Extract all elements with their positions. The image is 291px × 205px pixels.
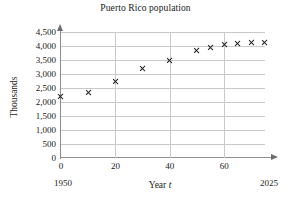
gridline-vertical <box>115 32 116 158</box>
data-point <box>221 41 228 48</box>
y-tick-label: 2,500 <box>22 84 56 93</box>
y-tick-label: 1,000 <box>22 126 56 135</box>
gridline-vertical <box>224 32 225 158</box>
y-tick-label: 4,500 <box>22 28 56 37</box>
axis-end-year-label: 2025 <box>251 178 287 188</box>
data-point <box>139 65 146 72</box>
gridline-horizontal <box>61 60 265 61</box>
data-point <box>248 39 255 46</box>
axis-start-year-label: 1950 <box>46 178 80 188</box>
gridline-horizontal <box>61 102 265 103</box>
x-axis-title-prefix: Year <box>149 180 169 190</box>
x-tick-label: 20 <box>100 161 130 171</box>
y-axis-arrow-icon <box>57 24 63 31</box>
gridline-vertical <box>170 32 171 158</box>
data-point <box>207 44 214 51</box>
x-axis-title-variable: t <box>169 180 172 190</box>
data-point <box>112 78 119 85</box>
y-tick-label: 3,500 <box>22 56 56 65</box>
gridline-horizontal <box>61 74 265 75</box>
y-tick-label: 3,000 <box>22 70 56 79</box>
data-point <box>58 93 65 100</box>
y-tick-label: 4,000 <box>22 42 56 51</box>
chart-figure: Puerto Rico population 05001,0001,5002,0… <box>0 0 291 205</box>
data-point <box>166 57 173 64</box>
data-point <box>234 40 241 47</box>
gridline-horizontal <box>61 116 265 117</box>
y-tick-label: 1,500 <box>22 112 56 121</box>
y-tick-label: 500 <box>22 140 56 149</box>
x-tick-label: 40 <box>155 161 185 171</box>
x-tick-label: 60 <box>209 161 239 171</box>
data-point <box>262 39 269 46</box>
gridline-horizontal <box>61 32 265 33</box>
plot-area <box>61 32 265 158</box>
y-axis-title: Thousands <box>9 57 19 137</box>
y-tick-label: 2,000 <box>22 98 56 107</box>
x-axis-title: Year t <box>110 180 210 190</box>
x-axis-arrow-icon <box>271 154 278 160</box>
gridline-horizontal <box>61 144 265 145</box>
gridline-horizontal <box>61 130 265 131</box>
data-point <box>85 89 92 96</box>
data-point <box>194 47 201 54</box>
y-axis-tick-labels: 05001,0001,5002,0002,5003,0003,5004,0004… <box>18 0 56 205</box>
x-tick-label: 0 <box>46 161 76 171</box>
